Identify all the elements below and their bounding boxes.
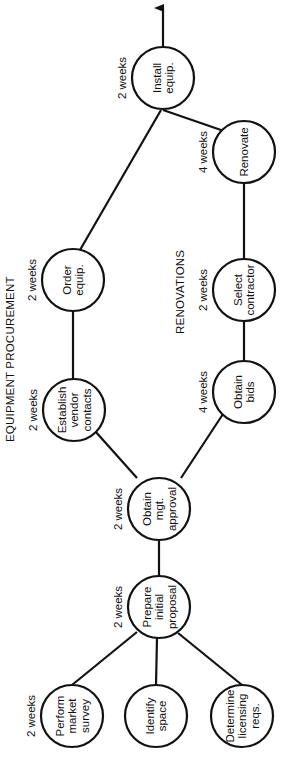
edge-survey-proposal (72, 632, 137, 685)
duration-label: 2 weeks (27, 389, 39, 431)
node-proposal: Prepareinitialproposal2 weeks (112, 576, 190, 638)
node-label: Identifyspace (144, 697, 169, 734)
node-bids: Obtainbids4 weeks (197, 361, 275, 423)
edge-space-proposal (156, 638, 157, 685)
nodes: Installequip.2 weeksRenovate4 weeksOrder… (25, 47, 275, 747)
duration-label: 2 weeks (112, 586, 124, 628)
duration-label: 2 weeks (197, 269, 209, 311)
node-space: Identifyspace (125, 685, 187, 747)
node-survey: Performmarketsurvey2 weeks (25, 685, 103, 747)
node-label: Installequip. (151, 62, 176, 93)
edge-order-install (80, 110, 161, 250)
node-renovate: Renovate4 weeks (197, 121, 275, 183)
section-label-renovations: RENOVATIONS (174, 250, 186, 334)
duration-label: 2 weeks (116, 57, 128, 99)
edge-licensing-proposal (178, 633, 242, 685)
node-label: Orderequip. (61, 264, 86, 295)
node-approval: Obtainmgt.approval2 weeks (112, 478, 190, 540)
node-label: Performmarketsurvey (54, 696, 91, 737)
node-vendor: Establishvendorcontacts2 weeks (27, 379, 105, 441)
node-label: Establishvendorcontacts (56, 387, 93, 434)
section-label-equipment: EQUIPMENT PROCUREMENT (4, 276, 16, 442)
duration-label: 4 weeks (197, 371, 209, 413)
edge-approval-vendor (95, 431, 137, 478)
pert-diagram: EQUIPMENT PROCUREMENT RENOVATIONS Instal… (0, 0, 283, 776)
node-select: Selectcontractor2 weeks (197, 259, 275, 321)
duration-label: 2 weeks (112, 488, 124, 530)
edge-renovate-install (163, 110, 221, 130)
edge-approval-bids (181, 414, 223, 478)
node-licensing: Determinelicensingreqs. (211, 685, 273, 747)
duration-label: 2 weeks (25, 695, 37, 737)
node-install: Installequip.2 weeks (116, 47, 194, 109)
node-order: Orderequip.2 weeks (26, 249, 104, 311)
node-label: Renovate (238, 127, 250, 176)
duration-label: 2 weeks (26, 259, 38, 301)
duration-label: 4 weeks (197, 131, 209, 173)
